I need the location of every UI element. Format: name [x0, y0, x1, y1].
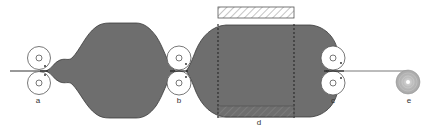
second-bubble	[186, 25, 338, 117]
roller-a-bottom	[28, 72, 51, 95]
heater-block-bottom	[218, 106, 294, 117]
rotation-mark-icon	[44, 65, 46, 67]
heater-block-top	[218, 7, 294, 18]
rotation-mark-icon	[44, 74, 46, 76]
rotation-mark-icon	[185, 63, 187, 65]
label-e: e	[407, 96, 412, 105]
process-diagram: a b c d e	[0, 0, 434, 131]
diagram-canvas: a b c d e	[0, 0, 434, 131]
rotation-mark-icon	[340, 62, 342, 64]
rotation-mark-icon	[340, 77, 342, 79]
roller-c-top	[321, 46, 345, 70]
first-bubble	[46, 23, 175, 118]
rotation-mark-icon	[185, 76, 187, 78]
roller-a-top	[28, 47, 51, 70]
reel-core	[406, 80, 411, 85]
wind-up-reel-e	[396, 70, 420, 94]
label-b: b	[177, 96, 182, 105]
roller-b-top	[167, 46, 191, 70]
label-d: d	[257, 118, 261, 127]
label-c: c	[331, 96, 335, 105]
label-a: a	[36, 96, 41, 105]
roller-c-bottom	[321, 71, 345, 95]
roller-b-bottom	[167, 71, 191, 95]
